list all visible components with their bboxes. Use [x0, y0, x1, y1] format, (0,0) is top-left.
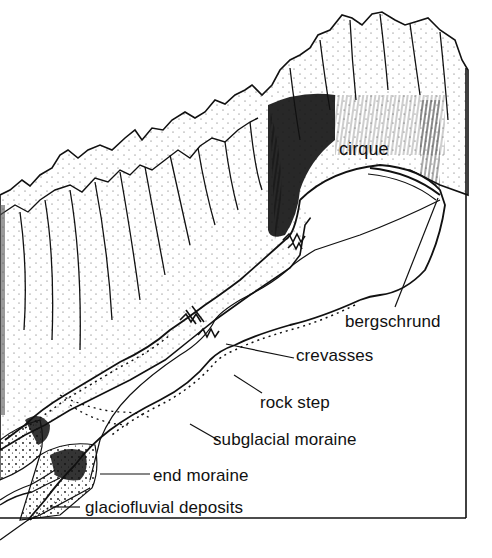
leader-rock-step	[234, 375, 262, 393]
leader-crevasses	[226, 344, 294, 358]
label-rock-step: rock step	[260, 394, 330, 411]
label-glaciofluvial-deposits: glaciofluvial deposits	[85, 499, 243, 516]
label-crevasses: crevasses	[296, 347, 373, 364]
label-bergschrund: bergschrund	[345, 313, 441, 330]
label-cirque: cirque	[339, 140, 389, 158]
label-subglacial-moraine: subglacial moraine	[213, 431, 357, 448]
label-end-moraine: end moraine	[153, 467, 249, 484]
